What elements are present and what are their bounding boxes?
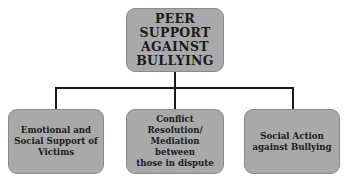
child-node-social-action: Social Action against Bullying [244, 109, 340, 174]
child-node-conflict-resolution: Conflict Resolution/ Mediation between t… [126, 109, 224, 174]
connector-child-2 [174, 87, 176, 109]
child-node-label: Emotional and Social Support of Victims [10, 125, 101, 158]
root-node: PEER SUPPORT AGAINST BULLYING [126, 8, 224, 72]
connector-child-1 [55, 87, 57, 109]
root-node-label: PEER SUPPORT AGAINST BULLYING [132, 12, 218, 68]
connector-child-3 [292, 87, 294, 109]
child-node-label: Conflict Resolution/ Mediation between t… [127, 114, 223, 169]
child-node-label: Social Action against Bullying [248, 131, 335, 153]
child-node-emotional-support: Emotional and Social Support of Victims [8, 109, 104, 174]
